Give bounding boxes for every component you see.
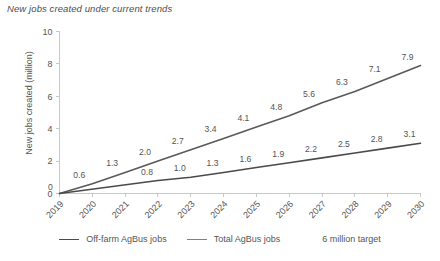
x-tick-label: 2028 — [340, 199, 361, 220]
data-label-total-2029: 7.1 — [369, 64, 381, 74]
x-tick-label: 2024 — [208, 199, 229, 220]
data-label-total-2030: 7.9 — [402, 52, 414, 62]
legend-label-off-farm: Off-farm AgBus jobs — [86, 234, 166, 244]
legend-item-off-farm-agbus-jobs[interactable]: Off-farm AgBus jobs — [59, 234, 166, 244]
chart-container: New jobs created under current trends Ne… — [0, 0, 440, 261]
data-label-off-farm-2026: 1.9 — [272, 149, 284, 159]
x-tick-label: 2022 — [143, 199, 164, 220]
x-tick-label: 2030 — [405, 199, 426, 220]
data-label-off-farm-2023: 1.0 — [174, 163, 186, 173]
x-tick-label: 2025 — [241, 199, 262, 220]
data-label-total-2022: 2.0 — [139, 147, 151, 157]
data-label-off-farm-2024: 1.3 — [207, 158, 219, 168]
data-label-off-farm-2029: 2.8 — [371, 134, 383, 144]
x-tick-label: 2026 — [274, 199, 295, 220]
data-label-total-2021: 1.3 — [106, 158, 118, 168]
y-tick-label: 4 — [47, 124, 52, 134]
y-tick-label: 2 — [47, 156, 52, 166]
legend-item-6-million-target[interactable]: 6 million target — [322, 234, 381, 244]
data-label-off-farm-2028: 2.5 — [338, 139, 350, 149]
series-lines — [60, 66, 421, 194]
data-label-off-farm-2022: 0.8 — [141, 167, 153, 177]
data-label-off-farm-2030: 3.1 — [404, 129, 416, 139]
data-label-total-2027: 5.6 — [303, 89, 315, 99]
y-axis-ticks: 0246810 — [42, 27, 59, 199]
legend-line-swatch-off-farm — [59, 239, 79, 240]
data-label-total-2028: 6.3 — [336, 77, 348, 87]
y-tick-label: 6 — [47, 92, 52, 102]
y-tick-label: 8 — [47, 59, 52, 69]
x-tick-label: 2029 — [372, 199, 393, 220]
x-tick-label: 2027 — [307, 199, 328, 220]
data-label-total-2026: 4.8 — [270, 102, 282, 112]
data-label-total-2025: 4.1 — [237, 113, 249, 123]
legend-label-total: Total AgBus jobs — [214, 234, 281, 244]
x-axis-ticks: 2019202020212022202320242025202620272028… — [44, 194, 426, 221]
x-tick-label: 2023 — [175, 199, 196, 220]
data-label-total-2023: 2.7 — [172, 136, 184, 146]
plot-area: 0246810 20192020202120222023202420252026… — [0, 0, 440, 261]
data-label-total-2019: 0 — [48, 182, 53, 192]
data-label-off-farm-2025: 1.6 — [239, 154, 251, 164]
legend-label-target: 6 million target — [322, 234, 381, 244]
series-line-0 — [60, 66, 421, 194]
data-label-off-farm-2027: 2.2 — [305, 144, 317, 154]
data-label-total-2024: 3.4 — [205, 124, 217, 134]
chart-legend: Off-farm AgBus jobs Total AgBus jobs 6 m… — [0, 234, 440, 244]
legend-item-total-agbus-jobs[interactable]: Total AgBus jobs — [187, 234, 281, 244]
x-tick-label: 2019 — [44, 199, 65, 220]
x-tick-label: 2021 — [110, 199, 131, 220]
data-label-total-2020: 0.6 — [73, 170, 85, 180]
x-tick-label: 2020 — [77, 199, 98, 220]
y-tick-label: 10 — [42, 27, 52, 37]
legend-line-swatch-total — [187, 239, 207, 240]
